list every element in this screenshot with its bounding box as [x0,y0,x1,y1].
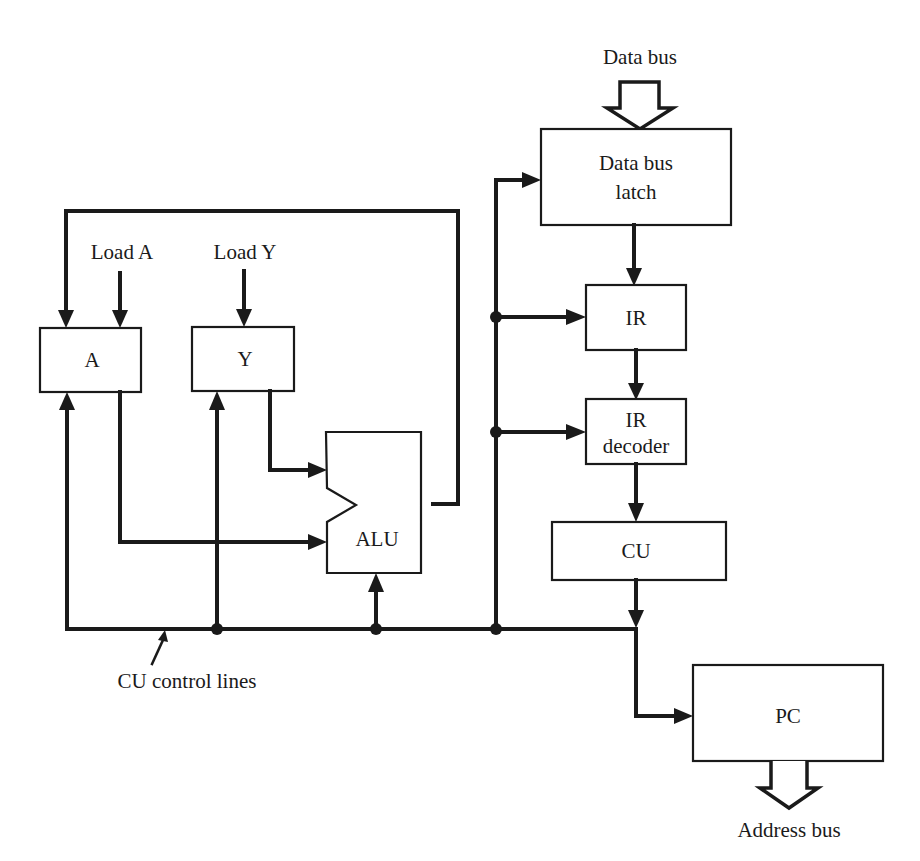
junction-dot [490,623,502,635]
register-a-block: A [40,328,141,392]
register-a-label: A [84,348,100,372]
junction-dot [490,311,502,323]
arrow-up-icon [368,573,384,592]
register-y-label: Y [237,347,252,371]
arrow-down-icon [626,268,642,286]
alu-label: ALU [355,527,398,551]
arrow-down-icon [58,310,74,328]
ir-label: IR [626,306,647,330]
microprocessor-block-diagram: Data bus Data bus latch IR IR decoder CU [0,0,920,861]
ir-decoder-label-line1: IR [626,408,647,432]
register-y-block: Y [192,327,294,391]
cu-block: CU [552,522,726,580]
pointer-arrow-icon [158,630,168,642]
arrow-down-icon [628,383,644,400]
arrow-right-icon [522,172,541,188]
pc-label: PC [775,704,801,728]
junction-dot [490,426,502,438]
arrow-down-icon [236,309,252,327]
arrow-right-icon [566,309,586,325]
load-y-label: Load Y [214,240,277,264]
arrow-right-icon [308,534,327,550]
arrow-down-icon [628,503,644,522]
arrow-right-icon [308,462,327,478]
cu-label: CU [621,539,650,563]
data-bus-latch-block: Data bus latch [541,129,731,225]
arrow-right-icon [566,424,586,440]
address-bus-arrow-icon [760,761,818,808]
data-bus-latch-label-line2: latch [616,180,657,204]
address-bus-label: Address bus [737,818,840,842]
arrow-down-icon [112,310,128,328]
alu-block: ALU [326,432,421,573]
ir-block: IR [586,285,686,350]
arrow-right-icon [674,708,693,724]
junction-dot [370,623,382,635]
cu-control-lines-label: CU control lines [118,669,257,693]
pc-block: PC [693,665,883,761]
data-bus-label: Data bus [603,45,677,69]
arrow-up-icon [209,391,225,410]
ir-decoder-block: IR decoder [586,399,686,464]
data-bus-arrow-icon [607,82,673,129]
ir-decoder-label-line2: decoder [603,434,669,458]
load-a-label: Load A [91,240,154,264]
junction-dot [211,623,223,635]
arrow-down-icon [628,610,644,628]
arrow-up-icon [59,392,75,410]
data-bus-latch-label-line1: Data bus [599,151,673,175]
